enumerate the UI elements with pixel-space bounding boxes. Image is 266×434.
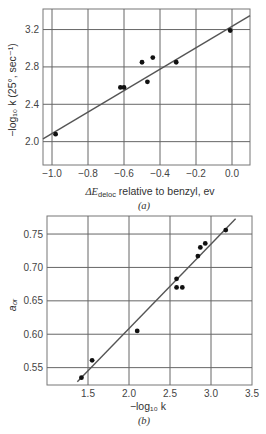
regression-line: [43, 16, 250, 139]
x-tick-label: 3.5: [245, 388, 259, 399]
data-point: [198, 245, 203, 250]
x-tick-label: 2.5: [163, 388, 177, 399]
data-point: [150, 55, 155, 60]
chart-b: 1.52.02.53.03.50.550.600.650.700.75a₀ᵣ−l…: [6, 216, 259, 427]
y-tick-label: 0.70: [24, 262, 44, 273]
x-tick-label: −1.0: [42, 168, 62, 179]
data-point: [174, 276, 179, 281]
y-tick-label: 3.2: [25, 24, 39, 35]
y-tick-label: 0.60: [24, 329, 44, 340]
y-axis-label: a₀ᵣ: [6, 298, 18, 311]
y-tick-label: 0.55: [24, 362, 44, 373]
chart-a: −1.0−0.8−0.6−0.4−0.20.02.02.42.83.2−log₁…: [6, 9, 250, 212]
data-point: [203, 241, 208, 246]
y-tick-label: 2.4: [25, 99, 39, 110]
x-axis-label: ΔEdeloc relative to benzyl, ev: [84, 185, 215, 199]
data-point: [90, 358, 95, 363]
data-point: [174, 60, 179, 65]
y-tick-label: 2.8: [25, 61, 39, 72]
data-point: [174, 285, 179, 290]
figure: −1.0−0.8−0.6−0.4−0.20.02.02.42.83.2−log₁…: [0, 0, 266, 434]
caption-a: (a): [138, 200, 151, 212]
x-tick-label: 0.0: [225, 168, 239, 179]
x-tick-label: 1.5: [81, 388, 95, 399]
y-tick-label: 0.65: [24, 295, 44, 306]
x-tick-label: 3.0: [204, 388, 218, 399]
x-tick-label: 2.0: [122, 388, 136, 399]
x-tick-label: −0.4: [150, 168, 170, 179]
data-point: [140, 60, 145, 65]
data-point: [122, 85, 127, 90]
y-tick-label: 0.75: [24, 229, 44, 240]
x-tick-label: −0.2: [186, 168, 206, 179]
data-point: [180, 285, 185, 290]
caption-b: (b): [138, 415, 151, 427]
data-point: [145, 79, 150, 84]
data-point: [228, 28, 233, 33]
y-axis-label: −log₁₀ k (25°, sec⁻¹): [6, 43, 18, 137]
data-point: [195, 254, 200, 259]
x-tick-label: −0.6: [114, 168, 134, 179]
x-axis-label: −log₁₀ k: [130, 400, 167, 412]
data-point: [223, 228, 228, 233]
y-tick-label: 2.0: [25, 136, 39, 147]
x-tick-label: −0.8: [78, 168, 98, 179]
data-point: [135, 328, 140, 333]
data-point: [79, 375, 84, 380]
data-point: [53, 132, 58, 137]
regression-line: [77, 219, 235, 382]
